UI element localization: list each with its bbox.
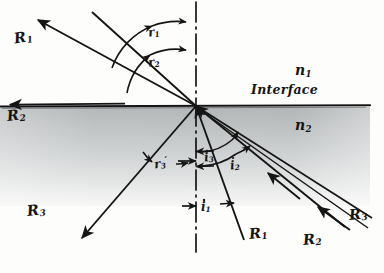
angle-label-i3: i3 bbox=[203, 151, 214, 165]
ray-label-R1-lower: R1 bbox=[248, 225, 268, 242]
medium-upper-label: n1 bbox=[295, 63, 312, 78]
ray-label-R2-interface: R2 bbox=[6, 107, 26, 125]
angle-label-i1: i1 bbox=[201, 201, 211, 214]
angle-label-r1: r1 bbox=[147, 25, 160, 39]
ray-label-R2-lower: R2 bbox=[302, 231, 322, 248]
ray-R2-upper bbox=[92, 12, 196, 106]
ray-label-R3-lower-left: R3 bbox=[26, 202, 46, 220]
ray-R2-interface bbox=[10, 104, 125, 105]
angle-label-r2: r2 bbox=[147, 55, 160, 69]
angle-label-r3-prime: r3′ bbox=[153, 155, 169, 171]
ray-R3-lower-arrow bbox=[318, 207, 350, 230]
interface-label: Interface bbox=[251, 84, 318, 97]
ray-R1-upper bbox=[38, 20, 196, 106]
ray-label-R3-lower-right: R3 bbox=[348, 206, 368, 223]
angle-label-i2: i2 bbox=[229, 159, 240, 173]
ray-diagram-figure: n1 Interface n2 R1 R2 R3 R1 R2 R3 r1 r2 … bbox=[0, 0, 384, 273]
ray-label-R1-upper: R1 bbox=[13, 29, 34, 47]
diagram-canvas bbox=[0, 0, 384, 273]
medium-lower-label: n2 bbox=[295, 118, 312, 133]
